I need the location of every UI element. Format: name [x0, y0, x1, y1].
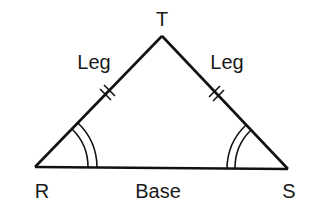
angle-r-arcs: [72, 123, 97, 167]
base-line: [35, 167, 288, 169]
isosceles-triangle-diagram: T R S Leg Leg Base: [0, 0, 312, 219]
vertex-label-r: R: [35, 180, 49, 202]
vertex-label-s: S: [282, 180, 295, 202]
base-label: Base: [135, 180, 181, 202]
right-leg-label: Leg: [210, 51, 243, 73]
left-leg-label: Leg: [77, 51, 110, 73]
triangle: [35, 36, 288, 169]
angle-s-arcs: [227, 125, 251, 169]
vertex-label-t: T: [156, 8, 168, 30]
